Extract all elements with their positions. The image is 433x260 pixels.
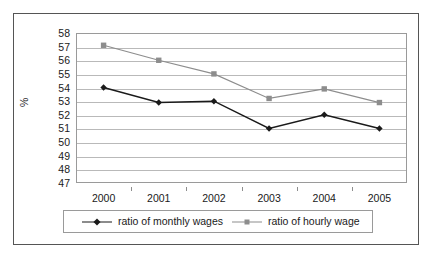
x-tick-mark: [186, 187, 187, 191]
x-axis-tick-labels: 200020012002200320042005: [76, 187, 407, 203]
y-tick-label: 50: [58, 137, 70, 148]
y-tick-label: 52: [58, 110, 70, 121]
data-point-diamond: [156, 99, 162, 105]
x-tick-mark: [131, 187, 132, 191]
data-point-diamond: [321, 112, 327, 118]
chart-legend: ratio of monthly wagesratio of hourly wa…: [63, 210, 373, 233]
y-tick-label: 53: [58, 96, 70, 107]
x-tick-label: 2000: [92, 193, 115, 204]
y-tick-label: 54: [58, 82, 70, 93]
y-tick-label: 47: [58, 178, 70, 189]
legend-entry[interactable]: ratio of monthly wages: [82, 211, 223, 232]
x-tick-label: 2003: [257, 193, 280, 204]
data-point-square: [266, 96, 271, 101]
data-point-diamond: [100, 84, 106, 90]
data-point-diamond: [211, 98, 217, 104]
x-tick-label: 2002: [202, 193, 225, 204]
legend-square-icon: [232, 216, 262, 228]
x-tick-label: 2004: [313, 193, 336, 204]
data-point-square: [377, 100, 382, 105]
y-tick-label: 49: [58, 150, 70, 161]
x-tick-mark: [352, 187, 353, 191]
x-tick-mark: [242, 187, 243, 191]
chart-frame: % 585756555453525150494847 2000200120022…: [13, 13, 419, 245]
series-line: [104, 88, 380, 129]
y-tick-label: 55: [58, 69, 70, 80]
data-point-square: [211, 71, 216, 76]
y-tick-label: 56: [58, 55, 70, 66]
y-tick-label: 58: [58, 28, 70, 39]
y-tick-label: 57: [58, 41, 70, 52]
data-point-square: [322, 86, 327, 91]
y-axis-tick-labels: 585756555453525150494847: [34, 33, 74, 183]
x-tick-label: 2001: [147, 193, 170, 204]
data-point-diamond: [376, 125, 382, 131]
y-tick-label: 51: [58, 123, 70, 134]
x-tick-mark: [297, 187, 298, 191]
data-point-square: [101, 43, 106, 48]
y-tick-label: 48: [58, 164, 70, 175]
legend-label: ratio of monthly wages: [118, 216, 223, 227]
series-line: [104, 45, 380, 102]
y-axis-title: %: [19, 98, 30, 107]
x-tick-label: 2005: [368, 193, 391, 204]
legend-label: ratio of hourly wage: [268, 216, 360, 227]
data-point-square: [156, 58, 161, 63]
legend-diamond-icon: [82, 216, 112, 228]
legend-entry[interactable]: ratio of hourly wage: [232, 211, 360, 232]
data-point-diamond: [266, 125, 272, 131]
series-layer: [76, 33, 407, 183]
